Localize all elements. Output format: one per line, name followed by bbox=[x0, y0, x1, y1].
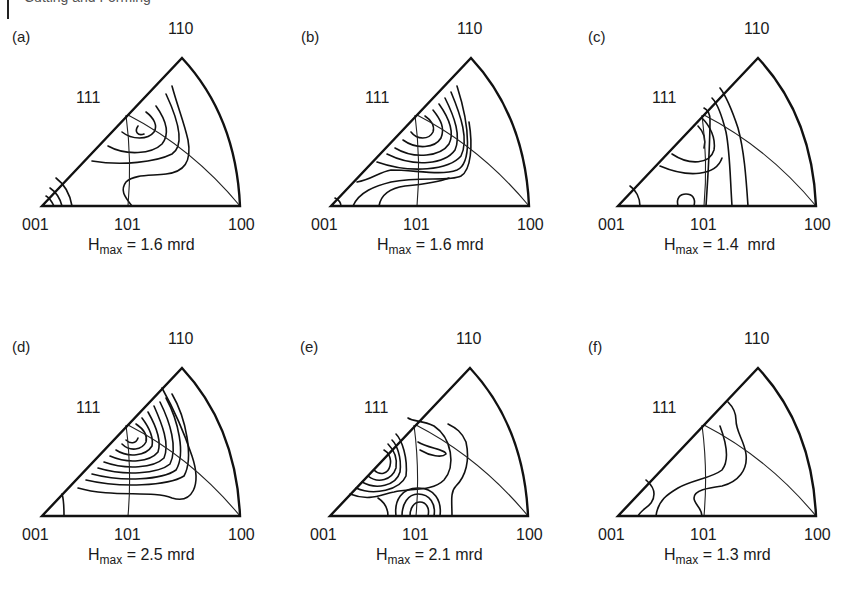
hmax-label: Hmax = 2.5 mrd bbox=[88, 546, 195, 567]
panel-b: (b)110111001101100Hmax = 1.6 mrd bbox=[289, 20, 569, 270]
pole-label-100: 100 bbox=[228, 216, 255, 234]
pole-label-110: 110 bbox=[744, 20, 770, 38]
contour-line bbox=[402, 494, 434, 516]
contour-line bbox=[418, 442, 446, 456]
pole-label-100: 100 bbox=[516, 526, 543, 544]
pole-label-111: 111 bbox=[365, 89, 389, 107]
pole-label-101: 101 bbox=[114, 526, 141, 544]
pole-label-110: 110 bbox=[744, 330, 770, 348]
panel-letter: (c) bbox=[588, 28, 606, 45]
pole-figure-plot bbox=[576, 330, 856, 540]
panel-letter: (f) bbox=[588, 338, 602, 355]
panel-d: (d)110111001101100Hmax = 2.5 mrd bbox=[0, 330, 280, 580]
contour-line bbox=[403, 110, 443, 147]
hmax-label: Hmax = 1.6 mrd bbox=[88, 236, 195, 257]
header-rule bbox=[7, 0, 9, 19]
contour-line bbox=[712, 98, 732, 206]
pole-label-001: 001 bbox=[310, 526, 337, 544]
great-circle-111-101 bbox=[415, 115, 419, 206]
hmax-symbol: H bbox=[664, 236, 676, 253]
pole-label-001: 001 bbox=[598, 526, 625, 544]
pole-label-110: 110 bbox=[457, 20, 483, 38]
contour-line bbox=[98, 402, 173, 473]
pole-label-111: 111 bbox=[652, 89, 676, 107]
pole-label-111: 111 bbox=[76, 399, 100, 417]
panel-f: (f)110111001101100Hmax = 1.3 mrd bbox=[576, 330, 856, 580]
hmax-subscript: max bbox=[389, 243, 412, 257]
contour-line bbox=[677, 194, 694, 206]
contour-line bbox=[378, 498, 388, 516]
stereographic-triangle-frame bbox=[331, 58, 529, 206]
contour-line bbox=[62, 494, 64, 516]
hmax-subscript: max bbox=[676, 553, 699, 567]
pole-figure-plot bbox=[289, 20, 569, 230]
hmax-label: Hmax = 1.6 mrd bbox=[377, 236, 484, 257]
panel-letter: (b) bbox=[301, 28, 319, 45]
pole-label-001: 001 bbox=[22, 216, 49, 234]
hmax-label: Hmax = 1.3 mrd bbox=[664, 546, 771, 567]
pole-label-110: 110 bbox=[168, 330, 194, 348]
great-circle-111-101 bbox=[126, 425, 130, 516]
great-circle-111-101 bbox=[702, 425, 706, 516]
pole-label-001: 001 bbox=[598, 216, 625, 234]
hmax-value: = 1.3 mrd bbox=[698, 546, 770, 563]
hmax-label: Hmax = 2.1 mrd bbox=[376, 546, 483, 567]
pole-figure-plot bbox=[0, 330, 280, 540]
hmax-value: = 2.1 mrd bbox=[410, 546, 482, 563]
contour-line bbox=[720, 88, 748, 206]
hmax-symbol: H bbox=[664, 546, 676, 563]
hmax-value: = 2.5 mrd bbox=[122, 546, 194, 563]
great-circle-111-100 bbox=[128, 115, 240, 206]
pole-label-101: 101 bbox=[690, 216, 717, 234]
panel-e: (e)110111001101100Hmax = 2.1 mrd bbox=[288, 330, 568, 580]
clipped-page-header: Cutting and Forming bbox=[0, 0, 866, 7]
hmax-symbol: H bbox=[88, 546, 100, 563]
pole-label-001: 001 bbox=[22, 526, 49, 544]
contour-line bbox=[136, 126, 144, 135]
contour-line bbox=[660, 158, 722, 174]
pole-label-100: 100 bbox=[228, 526, 255, 544]
pole-label-111: 111 bbox=[364, 399, 388, 417]
hmax-value: = 1.4 mrd bbox=[698, 236, 775, 253]
pole-figure-plot bbox=[576, 20, 856, 230]
pole-label-001: 001 bbox=[311, 216, 338, 234]
stereographic-triangle-frame bbox=[42, 58, 240, 206]
contour-line bbox=[448, 424, 468, 516]
pole-label-100: 100 bbox=[517, 216, 544, 234]
header-text: Cutting and Forming bbox=[24, 0, 151, 5]
pole-figure-plot bbox=[0, 20, 280, 230]
panel-letter: (a) bbox=[12, 28, 30, 45]
panel-letter: (d) bbox=[12, 338, 30, 355]
pole-label-111: 111 bbox=[652, 399, 676, 417]
pole-label-101: 101 bbox=[402, 526, 429, 544]
panel-letter: (e) bbox=[300, 338, 318, 355]
pole-label-101: 101 bbox=[690, 526, 717, 544]
pole-label-100: 100 bbox=[804, 216, 831, 234]
great-circle-111-100 bbox=[128, 425, 240, 516]
stereographic-triangle-frame bbox=[330, 368, 528, 516]
stereographic-triangle-frame bbox=[618, 368, 816, 516]
stereographic-triangle-frame bbox=[618, 58, 816, 206]
pole-label-110: 110 bbox=[456, 330, 482, 348]
hmax-label: Hmax = 1.4 mrd bbox=[664, 236, 775, 257]
contour-line bbox=[410, 502, 429, 516]
contour-line bbox=[387, 98, 457, 163]
hmax-symbol: H bbox=[376, 546, 388, 563]
pole-label-101: 101 bbox=[403, 216, 430, 234]
pole-label-101: 101 bbox=[114, 216, 141, 234]
hmax-subscript: max bbox=[388, 553, 411, 567]
contour-line bbox=[672, 118, 714, 162]
pole-label-111: 111 bbox=[76, 89, 100, 107]
contour-line bbox=[123, 86, 189, 206]
hmax-value: = 1.6 mrd bbox=[411, 236, 483, 253]
hmax-subscript: max bbox=[676, 243, 699, 257]
panel-a: (a)110111001101100Hmax = 1.6 mrd bbox=[0, 20, 280, 270]
pole-label-110: 110 bbox=[168, 20, 194, 38]
hmax-subscript: max bbox=[100, 553, 123, 567]
hmax-symbol: H bbox=[377, 236, 389, 253]
contour-line bbox=[694, 402, 746, 516]
pole-label-100: 100 bbox=[804, 526, 831, 544]
panel-c: (c)110111001101100Hmax = 1.4 mrd bbox=[576, 20, 856, 270]
hmax-value: = 1.6 mrd bbox=[122, 236, 194, 253]
hmax-subscript: max bbox=[100, 243, 123, 257]
